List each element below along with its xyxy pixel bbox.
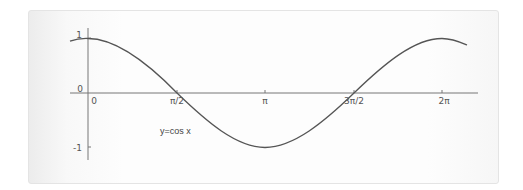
y-label-zero: 0: [77, 84, 83, 94]
y-label-neg-one: -1: [73, 143, 82, 153]
x-label-three-pi-half: 3π/2: [344, 96, 364, 106]
x-label-pi: π: [262, 96, 268, 106]
cosine-chart: 1 0 0 -1 π/2 π 3π/2 2π y=cos x: [0, 0, 523, 190]
x-label-two-pi: 2π: [438, 96, 450, 106]
y-label-one: 1: [76, 30, 82, 40]
x-label-zero: 0: [91, 96, 97, 106]
x-label-pi-half: π/2: [170, 96, 184, 106]
function-label: y=cos x: [160, 126, 191, 136]
